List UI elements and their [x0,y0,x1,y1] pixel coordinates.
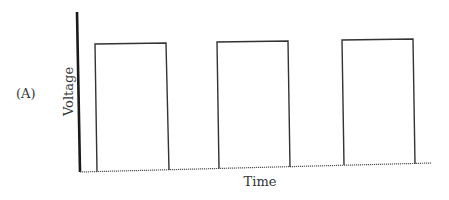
x-axis-label: Time [230,174,290,189]
pulse-1 [95,43,169,172]
pulse-3 [342,39,415,165]
x-axis-baseline [80,163,432,172]
panel-label: (A) [16,86,36,101]
pulse-2 [217,41,290,169]
y-axis [77,12,80,172]
y-axis-label: Voltage [61,62,76,122]
